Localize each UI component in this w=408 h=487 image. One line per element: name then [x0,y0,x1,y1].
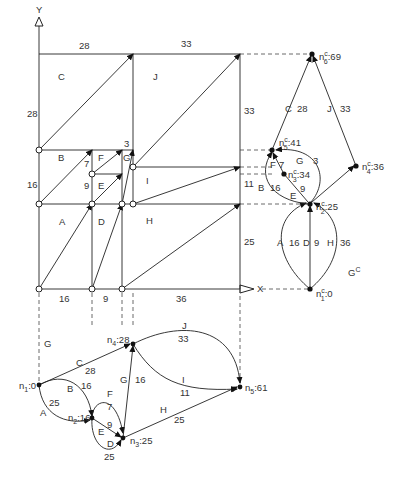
x-axis-arrow-icon [240,285,254,293]
y-axis-arrow-icon [35,17,43,26]
region-i: I [146,175,149,186]
g-node-n1: n1:0 [19,380,36,393]
gc-edge-c: C [285,103,292,114]
region-f: F [98,152,104,163]
gc-edge-f: F [270,159,276,170]
g-node-n2: n2:16 [68,412,90,425]
g-edge-d-weight: 25 [104,451,115,462]
y-axis-label: Y [36,4,43,15]
g-edge-b-weight: 16 [81,380,92,391]
g-node-n3: n3:25 [130,435,152,448]
region-b: B [58,152,64,163]
dim-top-33: 33 [181,38,192,49]
graph-g: n1:0 n2:16 n3:25 n4:28 n5:61 G C 28 B 16… [19,320,267,462]
gc-node-n3: nc3:34 [288,168,310,183]
g-edge-a: A [40,407,47,418]
gc-edge-g-weight: 3 [313,155,318,166]
g-edge-f: F [107,388,113,399]
g-edge-j-weight: 33 [178,333,189,344]
g-edge-b: B [67,383,73,394]
gc-edge-g: G [296,155,303,166]
region-g: G [123,152,130,163]
gc-edge-h-weight: 36 [340,237,351,248]
gc-edge-d-weight: 9 [314,237,319,248]
g-edge-j: J [182,320,187,331]
region-e: E [98,180,104,191]
region-a: A [59,216,66,227]
dim-left-16: 16 [27,179,38,190]
g-edge-a-weight: 25 [49,397,60,408]
dim-bottom-16: 16 [59,293,70,304]
gc-edge-e-weight: 9 [300,183,305,194]
dim-bottom-9: 9 [103,293,108,304]
dim-7: 7 [84,158,89,169]
region-j: J [153,71,158,82]
gc-edge-a-weight: 16 [289,237,300,248]
g-title: G [44,338,51,349]
g-edge-e: E [98,426,104,437]
gc-node-n5: nc5:41 [279,136,301,151]
dim-left-28: 28 [27,108,38,119]
gc-node-n4: nc4:36 [362,160,384,175]
g-edge-c: C [76,357,83,368]
gc-edge-e: E [290,190,296,201]
dim-right-25: 25 [244,236,255,247]
gc-edge-b: B [258,182,264,193]
dim-9: 9 [84,180,89,191]
g-edge-e-weight: 9 [107,419,112,430]
gc-edge-d: D [303,237,310,248]
graph-gc: nc1:0 nc2:25 nc3:34 nc4:36 nc5:41 nc6:69… [258,50,384,302]
x-axis-label: X [257,283,264,294]
g-edge-h: H [160,404,167,415]
g-edge-d: D [107,438,114,449]
rectangle-dissection-diagram: Y X [0,0,408,487]
dim-bottom-36: 36 [176,293,187,304]
region-h: H [146,215,153,226]
g-edge-c-weight: 28 [85,365,96,376]
gc-edge-f-weight: 7 [279,159,284,170]
dim-3: 3 [124,138,129,149]
g-node-n5: n5:61 [245,382,267,395]
dim-right-11: 11 [244,178,254,189]
gc-edge-h: H [327,237,334,248]
projection-lines [39,54,312,383]
gc-edge-a: A [277,237,284,248]
g-edge-g-weight: 16 [135,374,146,385]
gc-edge-c-weight: 28 [297,103,308,114]
dim-top-28: 28 [79,40,90,51]
gc-title: GC [348,266,360,278]
g-edge-i-weight: 11 [180,387,190,398]
g-edge-f-weight: 7 [107,401,112,412]
dim-right-33: 33 [244,105,255,116]
g-edge-h-weight: 25 [174,414,185,425]
gc-edge-j: J [327,103,332,114]
gc-edge-j-weight: 33 [340,103,351,114]
g-node-n4: n4:28 [107,334,129,347]
region-c: C [58,71,65,82]
square-dissection: Y X [27,4,264,304]
region-d: D [98,216,105,227]
gc-node-n1: nc1:0 [316,287,333,302]
gc-node-n6: nc6:69 [319,50,341,65]
g-edge-i: I [182,374,185,385]
gc-edge-b-weight: 16 [270,182,281,193]
g-edge-g: G [120,374,127,385]
